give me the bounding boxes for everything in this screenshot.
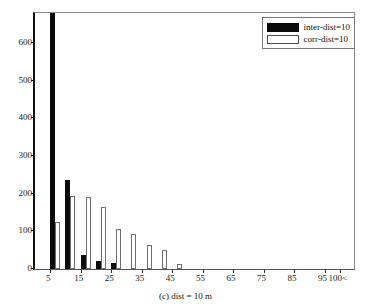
bar-corr-dist-10 [70, 196, 75, 269]
figure-histogram-dist-10: 0100200300400500600 51525354555657585951… [0, 0, 371, 308]
plot-frame [33, 12, 355, 270]
x-tick-label: 15 [64, 274, 94, 283]
x-tick-label: 85 [277, 274, 307, 283]
y-tick-label: 100 [0, 226, 32, 235]
y-tick-label: 200 [0, 189, 32, 198]
bar-corr-dist-25 [116, 229, 121, 269]
bar-corr-dist-15 [86, 197, 91, 269]
y-tick-label: 0 [0, 264, 32, 273]
x-tick-label: 65 [216, 274, 246, 283]
legend: inter-dist=10 corr-dist=10 [262, 17, 355, 49]
x-tick-label: 100< [323, 274, 353, 283]
legend-item-inter-dist: inter-dist=10 [267, 21, 350, 33]
bar-corr-dist-5 [55, 222, 60, 269]
x-tick-label: 55 [186, 274, 216, 283]
x-tick-label: 45 [155, 274, 185, 283]
x-tick-label: 25 [94, 274, 124, 283]
x-tick-label: 35 [125, 274, 155, 283]
bar-corr-dist-40 [162, 250, 167, 269]
bar-corr-dist-20 [101, 207, 106, 269]
x-tick-label: 5 [33, 274, 63, 283]
y-tick-label: 600 [0, 38, 32, 47]
x-tick-label: 75 [247, 274, 277, 283]
x-tick-mark [50, 269, 51, 273]
bar-corr-dist-45 [177, 264, 182, 269]
y-tick-label: 500 [0, 76, 32, 85]
legend-swatch-corr-dist [267, 35, 299, 44]
bar-corr-dist-30 [131, 234, 136, 269]
bar-corr-dist-35 [147, 245, 152, 269]
figure-caption: (c) dist = 10 m [0, 291, 371, 301]
y-tick-label: 400 [0, 113, 32, 122]
y-tick-label: 300 [0, 151, 32, 160]
plot-area [35, 13, 354, 269]
legend-item-corr-dist: corr-dist=10 [267, 33, 350, 45]
legend-swatch-inter-dist [267, 23, 299, 32]
legend-label-inter-dist: inter-dist=10 [304, 23, 350, 32]
legend-label-corr-dist: corr-dist=10 [304, 35, 348, 44]
